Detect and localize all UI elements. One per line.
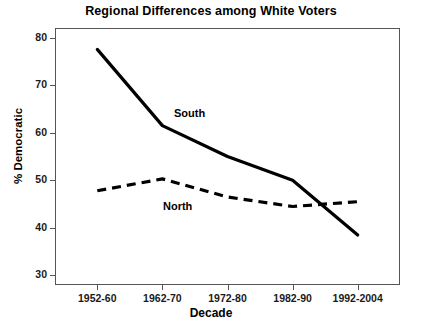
chart-figure: Regional Differences among White Voters … <box>0 0 422 334</box>
series-line-south <box>97 49 357 235</box>
series-annotation-south: South <box>174 107 205 119</box>
series-annotation-north: North <box>163 200 192 212</box>
series-layer <box>0 0 422 334</box>
